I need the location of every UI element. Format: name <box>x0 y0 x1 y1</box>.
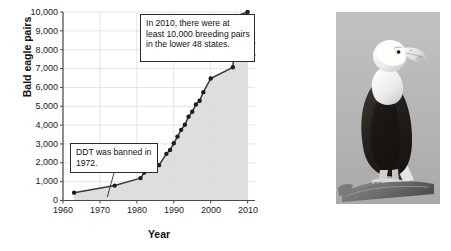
annotation-callout-ddt: DDT was banned in 1972. <box>70 143 158 173</box>
bald-eagle-photo <box>336 12 440 204</box>
annotation-callout-ddt-text: DDT was banned in 1972. <box>76 147 151 168</box>
bald-eagle-line-chart: Bald eagle pairs Year 10,000 9,000 8,000… <box>0 0 330 251</box>
annotation-callout-2010: In 2010, there were at least 10,000 bree… <box>140 14 255 62</box>
bald-eagle-illustration <box>336 12 440 204</box>
figure-root: Bald eagle pairs Year 10,000 9,000 8,000… <box>0 0 451 251</box>
annotation-callout-2010-text: In 2010, there were at least 10,000 bree… <box>146 18 250 49</box>
